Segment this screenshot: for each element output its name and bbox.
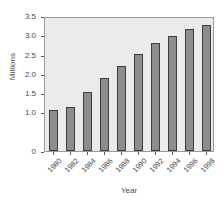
x-axis-tick-mark xyxy=(138,152,139,155)
bar xyxy=(202,25,211,151)
bar xyxy=(151,43,160,151)
y-axis-tick-label: 0 xyxy=(32,148,36,156)
bar xyxy=(83,92,92,151)
x-axis-tick-mark xyxy=(53,152,54,155)
bar xyxy=(100,78,109,151)
y-axis-tick-label: 2.0 xyxy=(25,71,36,79)
plot-area xyxy=(44,17,214,152)
x-axis-tick-mark xyxy=(70,152,71,155)
x-axis-tick-mark xyxy=(121,152,122,155)
x-axis-tick-mark xyxy=(172,152,173,155)
bar xyxy=(117,66,126,151)
x-axis-tick-mark xyxy=(104,152,105,155)
y-axis-tick-group: 3.53.02.52.01.51.00 xyxy=(0,0,41,203)
x-axis-tick-mark xyxy=(189,152,190,155)
bar-series xyxy=(45,18,213,151)
x-axis-title: Year xyxy=(44,186,214,195)
x-axis-tick-mark xyxy=(206,152,207,155)
x-axis-tick-mark xyxy=(155,152,156,155)
bar xyxy=(49,110,58,151)
bar xyxy=(185,29,194,151)
y-axis-tick-label: 3.0 xyxy=(25,32,36,40)
y-axis-tick-label: 1.5 xyxy=(25,90,36,98)
y-axis-tick-label: 3.5 xyxy=(25,13,36,21)
x-axis-tick-mark xyxy=(87,152,88,155)
y-axis-tick-label: 1.0 xyxy=(25,109,36,117)
bar-chart-figure: Millions 3.53.02.52.01.51.00 19801982198… xyxy=(0,0,224,203)
bar xyxy=(168,36,177,151)
bar xyxy=(134,54,143,151)
y-axis-tick-label: 2.5 xyxy=(25,52,36,60)
bar xyxy=(66,107,75,151)
